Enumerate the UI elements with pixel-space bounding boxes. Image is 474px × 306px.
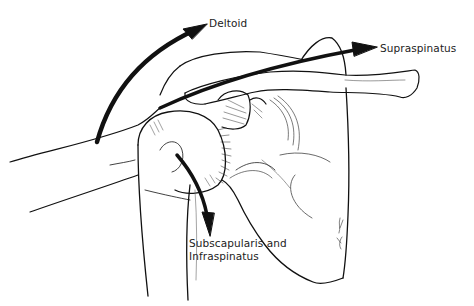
subscapularis-infraspinatus-label: Subscapularis and Infraspinatus — [189, 237, 287, 263]
supraspinatus-label: Supraspinatus — [380, 42, 456, 55]
deltoid-arrow — [97, 24, 207, 142]
deltoid-label: Deltoid — [209, 17, 247, 30]
scapular-spine-acromion — [160, 52, 419, 105]
coracoid-glenoid — [218, 91, 266, 129]
subscapularis-label-line2: Infraspinatus — [189, 250, 287, 263]
subscapularis-label-line1: Subscapularis and — [189, 237, 287, 250]
joint-capsule-hatching — [216, 96, 299, 183]
arm-contour — [10, 108, 160, 212]
humerus — [138, 111, 226, 300]
artist-signature — [337, 218, 343, 249]
